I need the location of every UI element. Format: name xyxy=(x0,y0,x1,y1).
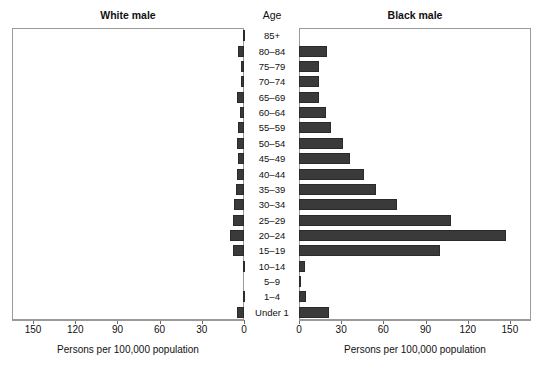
bar xyxy=(299,261,305,272)
axis-tick-label: 150 xyxy=(18,324,48,335)
bar xyxy=(238,122,244,133)
bar xyxy=(233,215,244,226)
bar xyxy=(299,291,306,302)
axis-tick-label: 120 xyxy=(60,324,90,335)
axis-tick-label: 30 xyxy=(326,324,356,335)
axis-tick-label: 60 xyxy=(145,324,175,335)
panel-title-black-male: Black male xyxy=(299,9,531,21)
bar xyxy=(299,76,319,87)
bar xyxy=(299,61,319,72)
bar xyxy=(243,261,245,272)
bar xyxy=(237,138,244,149)
bar xyxy=(299,92,319,103)
bar xyxy=(299,122,331,133)
bar xyxy=(299,184,376,195)
bar xyxy=(299,169,364,180)
bar xyxy=(299,138,343,149)
bar xyxy=(299,276,301,287)
bar xyxy=(299,230,506,241)
age-label: 1–4 xyxy=(246,291,298,302)
bar xyxy=(238,46,244,57)
bars-white-male xyxy=(12,28,244,320)
age-label: 15–19 xyxy=(246,245,298,256)
bar xyxy=(236,184,244,195)
axis-tick-label: 0 xyxy=(229,324,259,335)
bar xyxy=(238,153,244,164)
age-label: 5–9 xyxy=(246,276,298,287)
axis-tick-label: 60 xyxy=(368,324,398,335)
age-label: 10–14 xyxy=(246,261,298,272)
age-column-title: Age xyxy=(248,9,296,21)
axis-baseline xyxy=(12,320,244,321)
age-label: 60–64 xyxy=(246,107,298,118)
age-label: 85+ xyxy=(246,30,298,41)
bar xyxy=(299,245,440,256)
age-label: Under 1 xyxy=(246,307,298,318)
age-label: 40–44 xyxy=(246,169,298,180)
bar xyxy=(241,76,244,87)
x-axis-white-male: 1501209060300 xyxy=(12,320,244,338)
bar xyxy=(237,92,244,103)
bar xyxy=(299,107,326,118)
bar xyxy=(299,307,329,318)
axis-tick-label: 90 xyxy=(102,324,132,335)
age-label: 80–84 xyxy=(246,46,298,57)
age-label: 35–39 xyxy=(246,184,298,195)
x-axis-black-male: 0306090120150 xyxy=(299,320,531,338)
age-label: 50–54 xyxy=(246,138,298,149)
age-label: 30–34 xyxy=(246,199,298,210)
bar xyxy=(243,30,245,41)
x-axis-caption-black-male: Persons per 100,000 population xyxy=(299,344,531,355)
axis-tick-label: 120 xyxy=(453,324,483,335)
bar xyxy=(243,291,245,302)
age-label: 65–69 xyxy=(246,92,298,103)
age-label: 55–59 xyxy=(246,122,298,133)
age-label: 25–29 xyxy=(246,215,298,226)
age-label: 45–49 xyxy=(246,153,298,164)
age-label: 20–24 xyxy=(246,230,298,241)
bar xyxy=(237,169,244,180)
axis-baseline xyxy=(299,320,531,321)
age-label: 75–79 xyxy=(246,61,298,72)
population-pyramid-chart: White male Age Black male 85+80–8475–797… xyxy=(0,0,540,375)
bar xyxy=(234,199,244,210)
bar xyxy=(299,46,327,57)
bar xyxy=(237,307,244,318)
age-category-labels: 85+80–8475–7970–7465–6960–6455–5950–5445… xyxy=(246,28,298,320)
bar xyxy=(299,199,397,210)
axis-tick-label: 0 xyxy=(284,324,314,335)
x-axis-caption-white-male: Persons per 100,000 population xyxy=(12,344,244,355)
bar xyxy=(240,107,244,118)
bar xyxy=(299,215,451,226)
axis-tick-label: 150 xyxy=(495,324,525,335)
panel-title-white-male: White male xyxy=(12,9,244,21)
bars-black-male xyxy=(299,28,531,320)
axis-tick-label: 90 xyxy=(411,324,441,335)
age-label: 70–74 xyxy=(246,76,298,87)
axis-tick-label: 30 xyxy=(187,324,217,335)
bar xyxy=(230,230,244,241)
bar xyxy=(241,61,244,72)
bar xyxy=(233,245,244,256)
bar xyxy=(299,153,350,164)
